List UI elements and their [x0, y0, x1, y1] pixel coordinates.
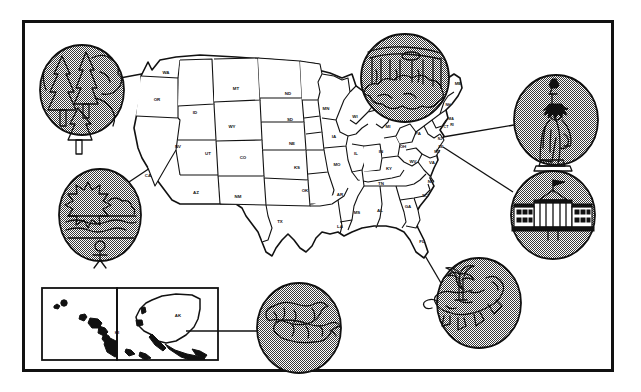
state-label-nh: NH	[445, 103, 451, 107]
callout-white-house[interactable]	[511, 171, 595, 259]
connector-white-house	[443, 147, 513, 192]
state-label-sd: SD	[287, 117, 293, 122]
state-label-wa: WA	[162, 70, 170, 75]
state-label-id: ID	[193, 110, 197, 115]
callout-california-beach[interactable]	[59, 169, 141, 268]
state-label-ga: GA	[405, 204, 412, 209]
state-label-oh: OH	[400, 144, 407, 149]
state-label-sc: SC	[422, 193, 429, 198]
state-label-nj: NJ	[438, 137, 443, 141]
hawaii-islands	[54, 300, 122, 357]
connector-florida-everglades	[424, 254, 441, 283]
callout-circle	[437, 258, 521, 348]
state-label-tn: TN	[378, 181, 384, 186]
state-label-ar: AR	[337, 192, 344, 197]
state-label-mo: MO	[333, 162, 341, 167]
alaska-landmass	[125, 294, 207, 363]
state-label-ma: MA	[448, 117, 454, 121]
state-label-nm: NM	[235, 194, 242, 199]
callout-pacific-northwest-forest[interactable]	[40, 45, 124, 154]
state-label-va: VA	[429, 160, 436, 165]
state-label-ri: RI	[450, 123, 454, 127]
map-canvas: WAORIDMTNDMNWYSDNEIAWIMINVUTCOKSMOILINOH…	[0, 0, 641, 392]
state-label-mt: MT	[233, 86, 240, 91]
callout-circle	[59, 169, 141, 261]
state-label-il: IL	[354, 151, 358, 156]
state-label-md: MD	[434, 150, 440, 154]
callout-florida-everglades[interactable]	[424, 258, 522, 348]
state-label-az: AZ	[193, 190, 199, 195]
state-label-me: ME	[455, 81, 462, 86]
state-label-tx: TX	[277, 219, 283, 224]
alaska-inset-box	[117, 288, 218, 360]
state-label-ne: NE	[289, 141, 295, 146]
state-label-pa: PA	[415, 131, 422, 136]
state-label-in: IN	[379, 149, 383, 154]
callout-circle	[257, 283, 341, 373]
state-label-or: OR	[154, 97, 161, 102]
state-label-mn: MN	[323, 106, 330, 111]
state-label-ca: CA	[145, 173, 152, 178]
state-label-wi: WI	[352, 114, 357, 119]
state-label-co: CO	[240, 155, 247, 160]
state-label-de: DE	[439, 145, 445, 149]
inset-label-ak: AK	[175, 313, 182, 318]
state-label-al: AL	[377, 208, 383, 213]
state-label-la: LA	[337, 224, 344, 229]
state-label-ks: KS	[294, 165, 300, 170]
state-label-ut: UT	[205, 151, 211, 156]
state-label-ky: KY	[386, 166, 392, 171]
inset-boxes	[42, 288, 218, 363]
state-label-wy: WY	[228, 124, 235, 129]
figure-root: WAORIDMTNDMNWYSDNEIAWIMINVUTCOKSMOILINOH…	[0, 0, 641, 392]
state-label-fl: FL	[419, 239, 425, 244]
state-label-ok: OK	[302, 188, 309, 193]
state-label-nv: NV	[175, 144, 181, 149]
state-label-nc: NC	[428, 179, 435, 184]
state-label-wv: WV	[409, 159, 416, 164]
state-label-nd: ND	[285, 91, 291, 96]
state-label-ms: MS	[354, 210, 361, 215]
state-label-mi: MI	[386, 124, 391, 129]
state-label-ct: CT	[444, 125, 450, 129]
callout-circle	[40, 45, 124, 135]
callout-statue-of-liberty[interactable]	[514, 75, 598, 171]
callout-niagara-falls[interactable]	[361, 34, 449, 122]
callout-alaska-salmon[interactable]	[257, 283, 341, 373]
